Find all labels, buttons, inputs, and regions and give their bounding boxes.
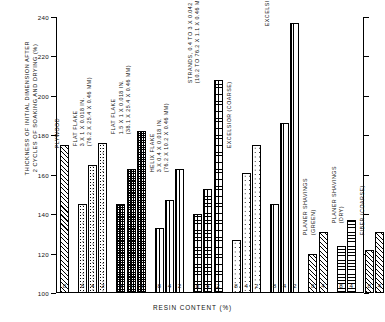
y-tick [51,214,56,215]
y-tick [51,175,56,176]
y-tick [51,17,56,18]
series-label: (10.2 TO 76.2 X 1.1 X 0.46 MM) [194,0,201,83]
y-axis-title: THICKNESS OF INITIAL DIMENSION AFTER 2 C… [23,0,39,223]
x-tick-label: 4 [321,282,325,289]
x-tick-label: 8 [63,282,67,289]
y-axis-left [56,17,57,293]
y-tick [364,56,369,57]
bar [137,131,146,293]
y-tick [51,293,56,294]
y-tick-label: 160 [38,171,49,178]
x-axis-title: RESIN CONTENT (%) [0,304,385,311]
x-tick-label: 4 [349,282,353,289]
bar [116,204,125,293]
y-tick-label: 140 [38,211,49,218]
x-tick-label: 8 [157,282,161,289]
y-tick-label: 220 [38,53,49,60]
x-tick-label: 2 [178,282,182,289]
series-label: FLAT FLAKE [110,99,117,135]
bar [60,145,69,293]
y-tick [364,293,369,294]
y-tick [364,135,369,136]
y-tick-label: 100 [38,290,49,297]
bar [290,23,299,293]
x-tick-label: 8 [81,282,85,289]
bar [214,80,223,293]
x-tick-label: 4 [168,282,172,289]
x-tick-label: 2 [139,282,143,289]
y-tick [364,96,369,97]
series-label: PLYWOOD [54,118,61,148]
bar [78,204,87,293]
series-label: 1.5 X 1 X 0.018 IN. [117,80,124,134]
y-tick [51,56,56,57]
bar [88,165,97,293]
bar [280,123,289,293]
bar [203,189,212,293]
bar [127,169,136,293]
x-tick-label: 2 [255,282,259,289]
y-tick [364,175,369,176]
figure: THICKNESS OF INITIAL DIMENSION AFTER 2 C… [0,0,385,322]
y-tick-label: 200 [38,92,49,99]
series-label: PLANER SHAVINGS [302,178,309,235]
plot-area: 100120140160180200220240 [56,17,364,293]
y-tick-label: 180 [38,132,49,139]
x-tick-label: 4 [283,282,287,289]
y-tick [51,254,56,255]
x-tick-label: 4 [378,282,382,289]
x-tick-label: 8 [196,282,200,289]
x-tick-label: 8 [119,282,123,289]
x-tick-label: 8 [273,282,277,289]
x-tick-label: 4 [129,282,133,289]
y-tick-label: 240 [38,14,49,21]
series-label: (GREEN) [309,209,316,235]
x-tick-label: 8 [311,282,315,289]
x-tick-label: 4 [206,282,210,289]
series-label: (DRY) [338,206,345,223]
series-label: (38.1 X 25.4 X 0.46 MM) [125,65,132,134]
series-label: EXCELSIOR (FINE) [264,0,271,26]
series-label: EXCELSIOR (COARSE) [225,82,232,149]
x-tick-label: 2 [216,282,220,289]
series-label: (76.2 X 25.4 X 0.46 MM) [86,77,93,146]
y-tick [364,17,369,18]
bar [98,143,107,293]
x-tick-label: 2 [101,282,105,289]
series-label: (76.2 X 10.2 X 0.46 MM) [163,103,170,172]
y-tick-label: 120 [38,250,49,257]
x-tick-label: 4 [244,282,248,289]
bar [242,173,251,293]
x-tick-label: 2 [293,282,297,289]
series-label: HELIX FLAKE [149,133,156,172]
series-label: FIBER (COARSE) [359,185,366,235]
x-tick-label: 4 [91,282,95,289]
x-tick-label: 8 [234,282,238,289]
x-tick-label: 8 [339,282,343,289]
y-tick [51,96,56,97]
x-tick-label: 8 [367,282,371,289]
bar [165,200,174,293]
series-label: PLANER SHAVINGS [330,166,337,223]
bar [270,204,279,293]
bar [175,169,184,293]
bar [252,145,261,293]
